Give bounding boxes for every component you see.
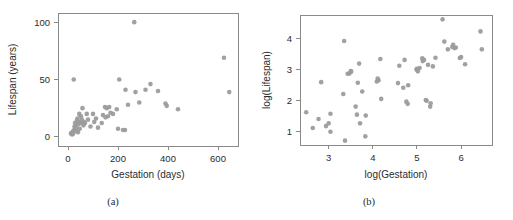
x-tick-label: 600 — [210, 153, 226, 164]
data-point — [164, 104, 169, 109]
data-point — [363, 113, 368, 118]
data-point — [86, 117, 91, 122]
scatter-plot-a: 0200400600050100Gestation (days)Lifespan… — [0, 0, 256, 220]
panel-a: 0200400600050100Gestation (days)Lifespan… — [0, 0, 256, 220]
data-point — [123, 128, 128, 133]
y-tick-label: 4 — [287, 33, 292, 44]
data-point — [341, 92, 346, 97]
data-point — [316, 117, 321, 122]
data-point — [431, 64, 436, 69]
data-point — [480, 47, 485, 52]
y-tick-label: 50 — [39, 74, 50, 85]
data-point — [176, 107, 181, 112]
data-point — [349, 69, 354, 74]
data-point — [454, 45, 459, 50]
x-tick-label: 400 — [160, 153, 176, 164]
data-point — [133, 90, 138, 95]
data-point — [328, 111, 333, 116]
data-point — [156, 89, 161, 94]
data-point — [143, 88, 148, 93]
data-point — [304, 110, 309, 115]
data-point — [117, 77, 122, 82]
x-axis-label: log(Gestation) — [365, 169, 428, 180]
panel-b: 34561234log(Gestation)log(Lifespan)(b) — [256, 0, 512, 220]
data-point — [417, 66, 422, 71]
data-point — [326, 121, 331, 126]
y-axis-label: log(Lifespan) — [261, 51, 272, 109]
data-point — [463, 62, 468, 67]
data-point — [353, 104, 358, 109]
y-tick-label: 100 — [34, 17, 50, 28]
y-axis-label: Lifespan (years) — [7, 44, 18, 116]
data-point — [107, 105, 112, 110]
data-point — [433, 55, 438, 60]
panel-caption: (a) — [107, 196, 119, 208]
data-point — [360, 89, 365, 94]
data-points — [69, 20, 232, 137]
data-point — [442, 39, 447, 44]
data-point — [111, 112, 116, 117]
data-point — [355, 112, 360, 117]
y-tick-label: 3 — [287, 64, 292, 75]
figure-two-panel-scatter: 0200400600050100Gestation (days)Lifespan… — [0, 0, 513, 220]
x-tick-label: 6 — [458, 152, 463, 163]
data-point — [459, 55, 464, 60]
data-point — [379, 97, 384, 102]
data-point — [132, 20, 137, 25]
data-points — [304, 17, 484, 143]
data-point — [428, 101, 433, 106]
data-point — [328, 129, 333, 134]
data-point — [77, 127, 82, 132]
y-tick-label: 0 — [45, 131, 50, 142]
x-axis-label: Gestation (days) — [111, 169, 184, 180]
x-tick-label: 4 — [370, 152, 375, 163]
data-point — [342, 39, 347, 44]
y-tick-label: 1 — [287, 126, 292, 137]
data-point — [402, 58, 407, 63]
data-point — [422, 58, 427, 63]
y-tick-label: 2 — [287, 95, 292, 106]
x-tick-label: 200 — [110, 153, 126, 164]
scatter-plot-b: 34561234log(Gestation)log(Lifespan)(b) — [256, 0, 512, 220]
data-point — [96, 125, 101, 130]
data-point — [84, 112, 89, 117]
x-tick-label: 5 — [414, 152, 419, 163]
panel-caption: (b) — [363, 196, 376, 208]
data-point — [397, 63, 402, 68]
data-point — [71, 77, 76, 82]
data-point — [401, 85, 406, 90]
data-point — [91, 112, 96, 117]
data-point — [123, 88, 128, 93]
data-point — [396, 81, 401, 86]
data-point — [426, 63, 431, 68]
data-point — [356, 80, 361, 85]
data-point — [222, 55, 227, 60]
data-point — [446, 47, 451, 52]
data-point — [357, 61, 362, 66]
data-point — [80, 106, 85, 111]
data-point — [319, 80, 324, 85]
data-point — [99, 121, 104, 126]
data-point — [94, 116, 99, 121]
data-point — [358, 121, 363, 126]
data-point — [424, 98, 429, 103]
data-point — [148, 82, 153, 87]
data-point — [378, 57, 383, 62]
data-point — [440, 17, 445, 22]
data-point — [405, 102, 410, 107]
data-point — [227, 90, 232, 95]
data-point — [343, 138, 348, 143]
x-tick-label: 0 — [65, 153, 70, 164]
data-point — [376, 78, 381, 83]
data-point — [363, 134, 368, 139]
data-point — [126, 102, 131, 107]
data-point — [88, 124, 93, 129]
data-point — [114, 107, 119, 112]
x-tick-label: 3 — [326, 152, 331, 163]
data-point — [478, 29, 483, 34]
data-point — [311, 126, 316, 131]
data-point — [137, 100, 142, 105]
data-point — [406, 83, 411, 88]
data-point — [116, 127, 121, 132]
